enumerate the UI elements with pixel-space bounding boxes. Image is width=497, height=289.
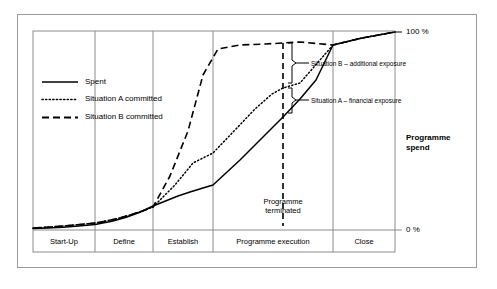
- annotation-situation-b-additional-exposure: Situation B – additional exposure: [311, 59, 406, 68]
- annotation-situation-a-financial-exposure: Situation A – financial exposure: [311, 96, 401, 105]
- phase-gridlines: [95, 31, 333, 252]
- y-axis-label-100: 100 %: [406, 27, 429, 36]
- series-situation-b-committed: [33, 181, 203, 228]
- phase-label-close: Close: [333, 237, 395, 246]
- phase-label-establish: Establish: [153, 237, 213, 246]
- brace-situation-a: [288, 88, 296, 113]
- y-axis-title-line2: spend: [406, 143, 430, 153]
- programme-terminated-label-line2: terminated: [250, 206, 316, 216]
- legend-label-spent: Spent: [85, 77, 106, 86]
- figure-container: Spent Situation A committed Situation B …: [0, 0, 497, 289]
- y-axis-title-line1: Programme: [406, 133, 450, 143]
- y-axis-label-0: 0 %: [406, 225, 420, 234]
- phase-label-define: Define: [95, 237, 153, 246]
- phase-label-start-up: Start-Up: [33, 237, 95, 246]
- legend-label-situation-a: Situation A committed: [85, 94, 162, 103]
- legend-label-situation-b: Situation B committed: [85, 112, 163, 121]
- phase-label-programme-execution: Programme execution: [213, 237, 333, 246]
